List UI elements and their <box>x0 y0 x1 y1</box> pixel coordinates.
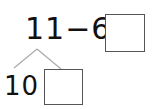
decomposition-part-ten: 10 <box>4 71 39 101</box>
decomposition-blank-box[interactable] <box>44 69 83 105</box>
